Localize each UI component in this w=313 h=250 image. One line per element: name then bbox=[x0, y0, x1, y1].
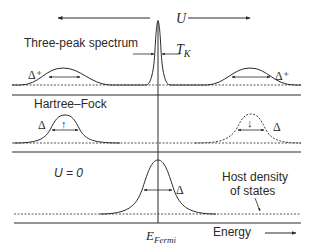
kondo-temperature-label: TK bbox=[176, 42, 192, 59]
u-axis-label: U bbox=[176, 11, 187, 26]
fermi-energy-label: EFermi bbox=[145, 228, 176, 245]
panel-title-hartree-fock: Hartree–Fock bbox=[34, 97, 108, 111]
host-dos-label-line2: of states bbox=[230, 184, 275, 198]
panel-title-u-zero: U = 0 bbox=[54, 166, 83, 180]
host-dos-pointer-arrow bbox=[255, 198, 260, 211]
u-axis: U bbox=[58, 11, 250, 26]
energy-axis-label: Energy bbox=[213, 225, 251, 239]
left-peak-delta-plus-label: Δ⁺ bbox=[28, 68, 42, 82]
fermi-subscript: Fermi bbox=[153, 235, 176, 245]
three-peak-spectrum-curve bbox=[12, 21, 301, 85]
resonance-delta-label: Δ bbox=[176, 183, 184, 197]
right-peak-delta-label: Δ bbox=[273, 120, 281, 134]
anderson-model-spectral-diagram: U Three-peak spectrum Δ⁺ Δ⁺ TK Hartree–F… bbox=[0, 0, 313, 250]
spin-up-arrow: ↑ bbox=[61, 118, 67, 130]
left-peak-delta-label: Δ bbox=[38, 118, 46, 132]
panel-three-peak: Three-peak spectrum Δ⁺ Δ⁺ TK bbox=[12, 21, 301, 95]
kondo-subscript: K bbox=[183, 48, 192, 59]
panel-title-three-peak: Three-peak spectrum bbox=[24, 36, 138, 50]
spin-up-peak-curve bbox=[14, 115, 120, 143]
fermi-e: E bbox=[145, 228, 154, 243]
spin-down-arrow: ↓ bbox=[247, 117, 253, 129]
panel-hartree-fock: Hartree–Fock ↑ ↓ Δ Δ bbox=[12, 97, 301, 152]
energy-axis: EFermi Energy bbox=[145, 225, 296, 245]
host-dos-label-line1: Host density bbox=[222, 170, 288, 184]
right-peak-delta-plus-label: Δ⁺ bbox=[275, 69, 289, 83]
